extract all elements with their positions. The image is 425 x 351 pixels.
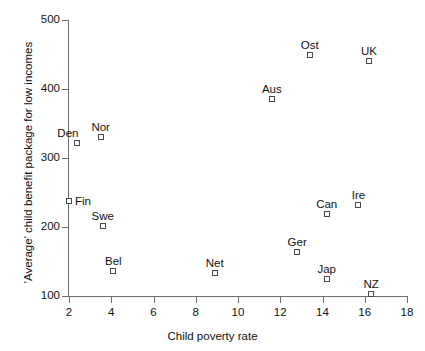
x-axis-title: Child poverty rate [0,330,425,343]
data-point-label: Aus [262,83,282,95]
y-tick-mark [62,20,68,21]
x-tick-label: 2 [54,306,84,318]
data-point-label: Nor [91,121,110,133]
x-tick-label: 6 [139,306,169,318]
data-point-marker [368,291,374,297]
data-point-label: Den [57,127,78,139]
data-point-marker [212,270,218,276]
x-tick-label: 12 [265,306,295,318]
y-tick-label: 100 [22,290,60,302]
y-tick-label-text: 500 [26,14,60,26]
data-point-label: Can [316,198,337,210]
data-point-marker [269,96,275,102]
data-point-marker [66,198,72,204]
data-point-label: Fin [75,195,91,207]
y-tick-mark [62,296,68,297]
data-point-label: NZ [363,278,378,290]
data-point-label: Ost [301,39,319,51]
data-point-marker [294,249,300,255]
x-tick-label: 14 [308,306,338,318]
data-point-label: Swe [92,210,114,222]
x-tick-label: 16 [350,306,380,318]
data-point-label: Net [206,257,224,269]
data-point-label: UK [361,45,377,57]
data-point-marker [324,276,330,282]
x-tick-mark [69,297,70,303]
x-tick-mark [111,297,112,303]
y-tick-mark [62,158,68,159]
y-axis-title: 'Average' child benefit package for low … [22,38,35,288]
data-point-marker [355,202,361,208]
y-tick-mark [62,227,68,228]
data-point-marker [98,134,104,140]
x-tick-label: 10 [223,306,253,318]
x-tick-mark [365,297,366,303]
data-point-marker [324,211,330,217]
data-point-marker [366,58,372,64]
data-point-marker [110,268,116,274]
y-tick-mark [62,89,68,90]
data-point-marker [100,223,106,229]
y-tick-label-text: 100 [26,290,60,302]
scatter-chart-figure: 100200300400500 24681012141618 'Average'… [0,0,425,351]
data-point-marker [307,52,313,58]
data-point-marker [74,140,80,146]
x-tick-mark [407,297,408,303]
x-tick-mark [154,297,155,303]
x-tick-label: 8 [181,306,211,318]
data-point-label: Ger [288,236,307,248]
x-tick-label: 18 [392,306,422,318]
data-point-label: Bel [105,255,122,267]
y-tick-label: 500 [22,14,60,26]
data-point-label: Jap [317,263,336,275]
x-tick-mark [238,297,239,303]
x-tick-mark [280,297,281,303]
x-tick-mark [323,297,324,303]
x-tick-label: 4 [96,306,126,318]
x-tick-mark [196,297,197,303]
data-point-label: Ire [352,189,365,201]
